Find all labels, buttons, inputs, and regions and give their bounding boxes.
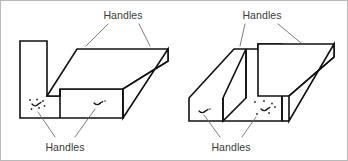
handles-figure: Handles Handles [1, 1, 348, 161]
right-block-top-face [258, 44, 334, 96]
left-top-leader-1 [86, 24, 108, 46]
left-block-diagram: Handles Handles [20, 9, 168, 153]
right-top-handles-label: Handles [242, 9, 281, 21]
figure-canvas: Handles Handles [0, 0, 348, 161]
right-block-diagram: Handles Handles [189, 9, 334, 153]
left-bottom-handles-label: Handles [45, 141, 84, 153]
right-top-leader-1 [240, 24, 245, 46]
left-top-handles-label: Handles [103, 9, 142, 21]
right-top-leader-2 [278, 24, 301, 43]
left-top-leader-2 [139, 24, 150, 46]
right-bottom-handles-label: Handles [211, 141, 250, 153]
